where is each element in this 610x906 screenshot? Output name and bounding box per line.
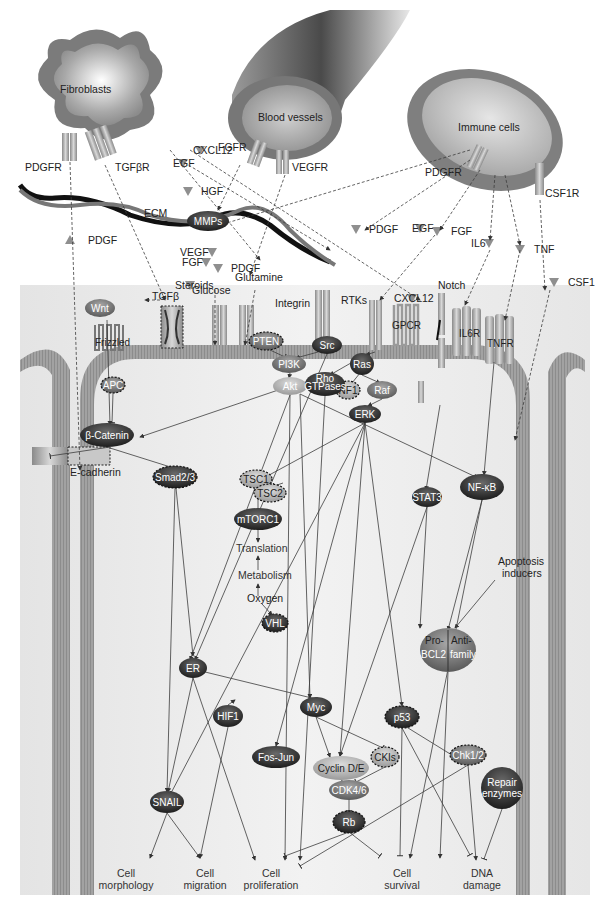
svg-text:TNFR: TNFR bbox=[487, 338, 514, 349]
svg-text:Fos-Jun: Fos-Jun bbox=[258, 752, 294, 763]
svg-text:BCL2: BCL2 bbox=[421, 649, 446, 660]
node-hif1: HIF1 bbox=[213, 705, 243, 727]
svg-text:CKIs: CKIs bbox=[374, 752, 396, 763]
svg-text:migration: migration bbox=[183, 879, 226, 891]
svg-text:EGF: EGF bbox=[412, 222, 434, 234]
node-myc: Myc bbox=[300, 697, 332, 717]
svg-text:Anti-: Anti- bbox=[451, 635, 472, 646]
svg-text:damage: damage bbox=[463, 879, 501, 891]
svg-text:p53: p53 bbox=[394, 712, 411, 723]
node-cdk: CDK4/6 bbox=[329, 780, 369, 800]
svg-text:mTORC1: mTORC1 bbox=[237, 514, 279, 525]
process-translation: Translation bbox=[236, 542, 288, 554]
svg-text:Glucose: Glucose bbox=[192, 284, 231, 296]
svg-text:Src: Src bbox=[320, 340, 335, 351]
node-bcl2-family: Pro- Anti- BCL2 family bbox=[420, 628, 476, 672]
ligand-cxcl12_mid: CXCL12 bbox=[394, 292, 434, 304]
node-pten: PTEN bbox=[249, 332, 283, 350]
blood-vessels-label: Blood vessels bbox=[258, 111, 323, 123]
node-src: Src bbox=[312, 336, 342, 354]
node-apc: APC bbox=[101, 377, 125, 393]
edge-2 bbox=[170, 150, 260, 260]
svg-text:PDGFR: PDGFR bbox=[25, 161, 62, 173]
svg-text:family: family bbox=[450, 649, 476, 660]
node-cyclin: Cyclin D/E bbox=[313, 756, 369, 780]
process-oxygen: Oxygen bbox=[247, 592, 283, 604]
node-tsc2: TSC2 bbox=[254, 484, 286, 502]
svg-text:SNAIL: SNAIL bbox=[153, 797, 182, 808]
node-er: ER bbox=[179, 658, 207, 678]
svg-text:FGF: FGF bbox=[451, 225, 472, 237]
svg-text:Cell: Cell bbox=[196, 867, 214, 879]
ligand-fgf_right: FGF bbox=[432, 225, 472, 237]
ligand-pdgf_right: PDGF bbox=[351, 223, 398, 235]
svg-text:VEGFR: VEGFR bbox=[292, 161, 329, 173]
svg-text:HIF1: HIF1 bbox=[217, 711, 239, 722]
svg-text:IL6R: IL6R bbox=[459, 328, 480, 339]
svg-text:morphology: morphology bbox=[99, 879, 155, 891]
svg-text:VHL: VHL bbox=[265, 618, 285, 629]
receptor-il6r: IL6R bbox=[452, 306, 481, 356]
svg-text:Myc: Myc bbox=[307, 702, 325, 713]
ligand-glucose: Glucose bbox=[192, 284, 231, 296]
svg-text:Repair: Repair bbox=[487, 777, 517, 788]
process-metabolism: Metabolism bbox=[238, 569, 292, 581]
node-rb: Rb bbox=[333, 811, 365, 833]
ligand-glutamine: Glutamine bbox=[235, 271, 283, 283]
node-mtorc1: mTORC1 bbox=[234, 508, 282, 530]
receptor-pdgfr-fibroblast: PDGFR bbox=[25, 133, 77, 173]
node-vhl: VHL bbox=[262, 614, 288, 632]
svg-text:CXCL12: CXCL12 bbox=[394, 292, 434, 304]
svg-text:TSC1: TSC1 bbox=[243, 474, 269, 485]
svg-text:TGFβ: TGFβ bbox=[152, 290, 179, 302]
fibroblasts-label: Fibroblasts bbox=[60, 83, 111, 95]
node-chk: Chk1/2 bbox=[450, 745, 486, 765]
immune-cells-label: Immune cells bbox=[458, 121, 520, 133]
apoptosis-inducers-line1: Apoptosis bbox=[498, 555, 544, 567]
node-smad: Smad2/3 bbox=[153, 466, 197, 488]
node-fos-jun: Fos-Jun bbox=[252, 746, 300, 768]
svg-text:Cell: Cell bbox=[393, 867, 411, 879]
svg-text:enzymes: enzymes bbox=[482, 788, 522, 799]
node-snail: SNAIL bbox=[150, 791, 184, 813]
edge-4 bbox=[180, 160, 330, 250]
node-mmps: MMPs bbox=[187, 211, 229, 231]
svg-text:Frizzled: Frizzled bbox=[95, 337, 130, 348]
svg-text:Cell: Cell bbox=[262, 867, 280, 879]
svg-text:CSF1R: CSF1R bbox=[545, 187, 580, 199]
node-ras: Ras bbox=[350, 353, 374, 375]
apoptosis-inducers-line2: inducers bbox=[502, 567, 542, 579]
svg-text:E-cadherin: E-cadherin bbox=[70, 466, 121, 478]
svg-text:CDK4/6: CDK4/6 bbox=[331, 785, 366, 796]
svg-text:FGF: FGF bbox=[182, 256, 203, 268]
pathway-diagram: Fibroblasts Blood vessels Immune cells P… bbox=[0, 0, 610, 906]
svg-text:CSF1: CSF1 bbox=[568, 276, 595, 288]
svg-text:STAT3: STAT3 bbox=[412, 492, 442, 503]
ecm-label: ECM bbox=[144, 207, 167, 219]
ligand-il6: IL6 bbox=[471, 237, 494, 249]
svg-text:proliferation: proliferation bbox=[244, 879, 299, 891]
svg-text:Cell: Cell bbox=[117, 867, 135, 879]
blood-vessel: Blood vessels bbox=[228, 10, 410, 160]
svg-text:Pro-: Pro- bbox=[425, 635, 444, 646]
diagram-canvas: Fibroblasts Blood vessels Immune cells P… bbox=[0, 0, 610, 906]
svg-text:DNA: DNA bbox=[471, 867, 493, 879]
svg-text:PTEN: PTEN bbox=[253, 336, 280, 347]
edge-1 bbox=[105, 165, 165, 300]
svg-text:survival: survival bbox=[384, 879, 420, 891]
node-repair-enzymes: Repairenzymes bbox=[481, 767, 523, 809]
svg-text:RTKs: RTKs bbox=[341, 294, 367, 306]
svg-text:β-Catenin: β-Catenin bbox=[85, 430, 129, 441]
svg-text:TSC2: TSC2 bbox=[257, 488, 283, 499]
svg-text:GTPases: GTPases bbox=[304, 381, 346, 392]
ligand-egf_right: EGF bbox=[412, 222, 434, 234]
svg-text:NF-κB: NF-κB bbox=[468, 482, 497, 493]
svg-text:HGF: HGF bbox=[201, 185, 223, 197]
svg-text:Cyclin D/E: Cyclin D/E bbox=[318, 763, 365, 774]
svg-text:ER: ER bbox=[186, 663, 200, 674]
edge-6 bbox=[250, 175, 285, 275]
ligand-tnf: TNF bbox=[515, 243, 554, 255]
svg-text:Akt: Akt bbox=[283, 381, 298, 392]
node-ckis: CKIs bbox=[371, 747, 399, 767]
svg-text:Ras: Ras bbox=[353, 359, 371, 370]
